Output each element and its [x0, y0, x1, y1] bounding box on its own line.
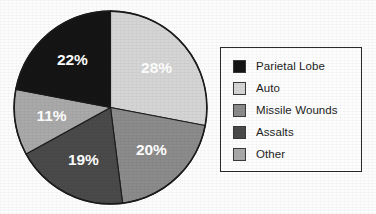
legend-swatch-icon — [233, 126, 246, 139]
pie-slice-value-label: 20% — [136, 141, 167, 158]
legend-item-label: Other — [256, 148, 285, 160]
legend-swatch-icon — [233, 60, 246, 73]
legend-item-label: Assalts — [256, 126, 294, 138]
pie-slice-value-label: 19% — [68, 151, 99, 168]
legend-item[interactable]: Assalts — [233, 121, 361, 143]
legend-item[interactable]: Auto — [233, 77, 361, 99]
legend-item[interactable]: Parietal Lobe — [233, 55, 361, 77]
pie-chart-figure: 28%20%19%11%22% Parietal LobeAutoMissile… — [0, 0, 376, 214]
pie-slice-value-label: 22% — [57, 51, 88, 68]
legend-swatch-icon — [233, 148, 246, 161]
pie-slice-value-label: 11% — [36, 107, 66, 124]
legend-item-label: Parietal Lobe — [256, 60, 325, 72]
legend-item[interactable]: Missile Wounds — [233, 99, 361, 121]
legend-item[interactable]: Other — [233, 143, 361, 165]
chart-legend: Parietal LobeAutoMissile WoundsAssaltsOt… — [220, 47, 362, 172]
pie-chart-svg: 28%20%19%11%22% — [13, 10, 208, 205]
legend-swatch-icon — [233, 104, 246, 117]
legend-item-label: Auto — [256, 82, 280, 94]
legend-item-label: Missile Wounds — [256, 104, 338, 116]
pie-slice-value-label: 28% — [141, 59, 172, 76]
legend-swatch-icon — [233, 82, 246, 95]
pie-chart-plot-area: 28%20%19%11%22% — [13, 10, 208, 205]
